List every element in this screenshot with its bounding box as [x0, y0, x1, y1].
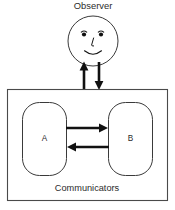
eye-right-icon [98, 31, 103, 36]
node-b-label: B [128, 134, 134, 143]
communicators-caption: Communicators [55, 183, 120, 193]
node-b: B [109, 103, 153, 176]
node-a: A [23, 103, 67, 176]
eye-left-icon [81, 31, 86, 36]
observer-communicators-diagram: Observer [0, 0, 175, 210]
nose-l-glyph [92, 38, 94, 46]
a-to-b-arrow [66, 124, 108, 133]
observer-figure [68, 16, 118, 66]
observer-title: Observer [74, 0, 113, 11]
node-a-label: A [42, 134, 48, 143]
mouth-smile [85, 51, 102, 54]
b-to-a-arrow [67, 143, 109, 152]
